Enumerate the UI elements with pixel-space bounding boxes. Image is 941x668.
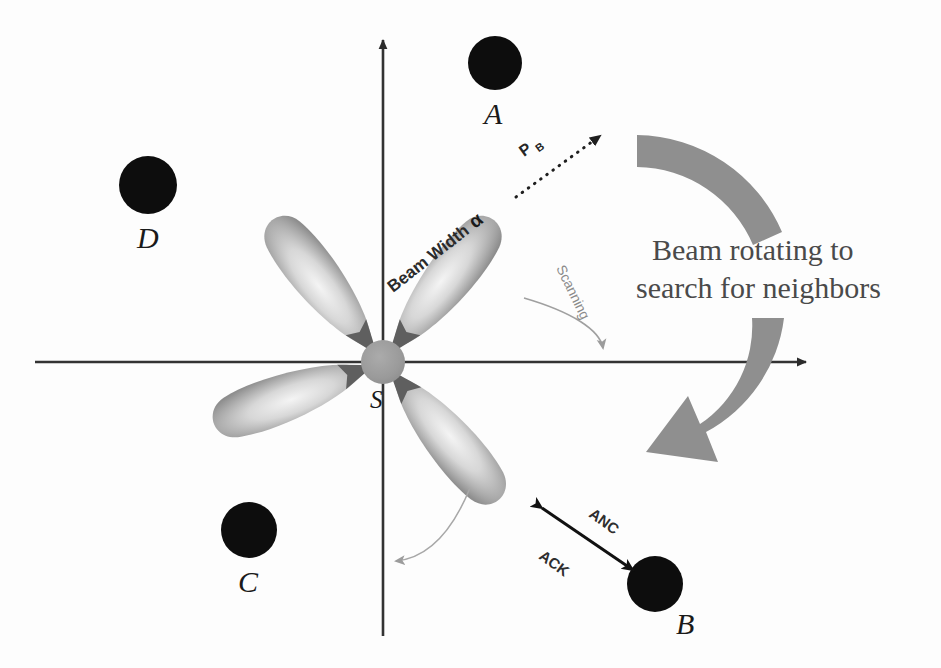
node-a-label: A [482, 97, 503, 130]
ack-label: ACK [536, 547, 572, 580]
node-d-label: D [136, 221, 159, 254]
rotation-arc-lower [646, 318, 784, 462]
node-c-label: C [238, 565, 259, 598]
figure-canvas: S A B C D PB Beam Widthα [0, 0, 941, 668]
beam-lobe-lower-right [376, 360, 517, 515]
node-a[interactable] [468, 36, 522, 90]
scanning-arc-group: Scanning [524, 262, 603, 348]
caption-line-1: Beam rotating to [652, 233, 854, 266]
beam-lobe-lower-left [206, 345, 375, 446]
rotation-arc-upper [637, 135, 782, 245]
power-beam-arrow-group: PB [516, 132, 600, 197]
caption-line-2: search for neighbors [636, 271, 881, 304]
beamforming-diagram: S A B C D PB Beam Widthα [0, 0, 941, 668]
rotation-caption-group: Beam rotating to search for neighbors [636, 233, 881, 304]
node-c[interactable] [221, 502, 277, 558]
power-beam-symbol: P [516, 139, 535, 159]
scanning-arc-lower [396, 488, 470, 561]
node-b-label: B [676, 607, 694, 640]
power-beam-label: PB [516, 132, 547, 162]
center-node-s[interactable] [361, 340, 405, 384]
anc-label: ANC [586, 505, 622, 538]
node-d[interactable] [119, 156, 177, 214]
anc-ack-link-group: ANC ACK [536, 505, 633, 580]
center-node-label: S [370, 386, 383, 413]
node-b[interactable] [627, 556, 683, 612]
beam-lobe-upper-left [253, 205, 391, 363]
power-beam-dotted-arrow [516, 136, 600, 197]
axes-group [35, 40, 806, 636]
power-beam-subscript: B [533, 140, 547, 154]
scanning-arc [524, 298, 603, 348]
scanning-label: Scanning [553, 262, 593, 321]
